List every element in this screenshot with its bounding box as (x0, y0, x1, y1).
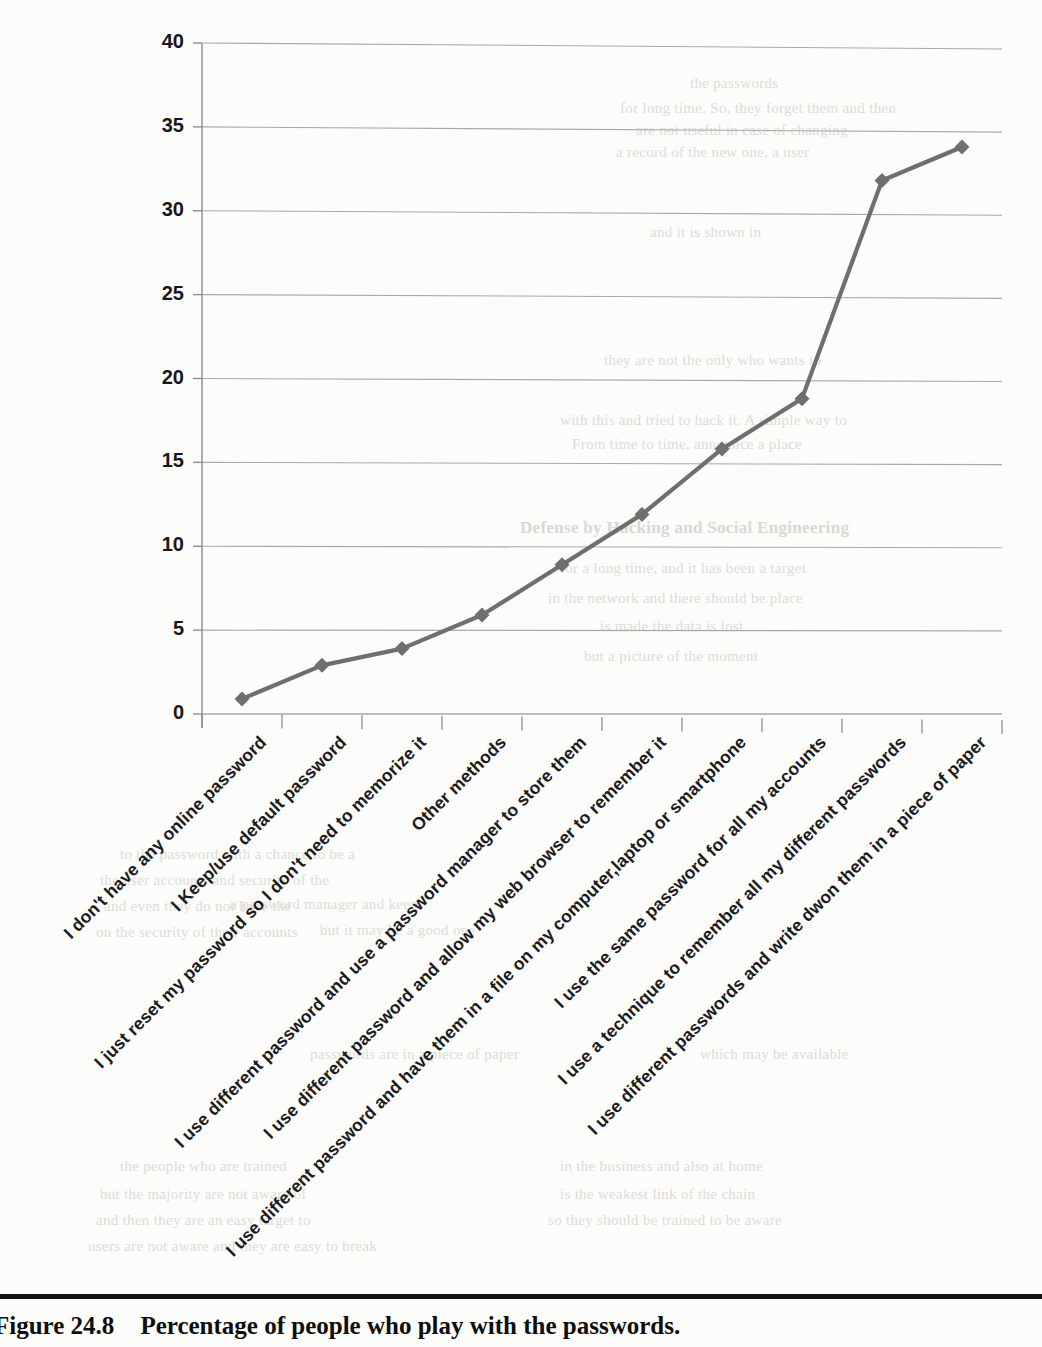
y-axis-tick-label: 25 (124, 282, 184, 305)
gridlines (202, 43, 1002, 714)
line-chart: 0510152025303540 (0, 0, 1042, 740)
y-axis-tick-label: 30 (124, 198, 184, 221)
data-markers (235, 140, 970, 707)
x-axis-category-label: I use different passwords and write dwon… (584, 732, 991, 1139)
scanned-page: the passwordsfor long time. So, they for… (0, 0, 1042, 1347)
y-axis-tick-label: 20 (124, 366, 184, 389)
figure-caption-text: Percentage of people who play with the p… (140, 1312, 680, 1339)
axes (193, 43, 202, 728)
y-axis-tick-label: 40 (124, 30, 184, 53)
x-axis-category-label: I use the same password for all my accou… (550, 732, 831, 1013)
caption-rule (0, 1294, 1042, 1299)
y-axis-tick-label: 35 (124, 114, 184, 137)
x-axis-category-label: I use different password and have them i… (222, 732, 751, 1261)
data-line (242, 147, 962, 699)
x-axis-category-labels: I don't have any online passwordI Keep/u… (0, 718, 1042, 1238)
figure-number: Figure 24.8 (0, 1312, 114, 1339)
y-axis-tick-label: 5 (124, 617, 184, 640)
y-axis-tick-label: 15 (124, 449, 184, 472)
figure-caption: Figure 24.8Percentage of people who play… (0, 1312, 1042, 1340)
y-axis-tick-label: 10 (124, 533, 184, 556)
